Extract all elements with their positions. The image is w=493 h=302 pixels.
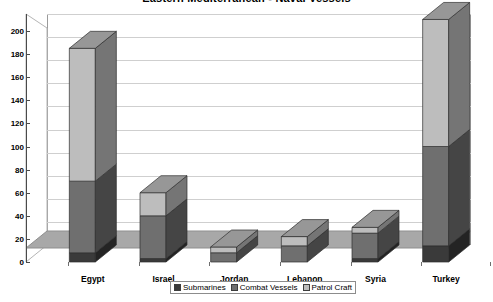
y-tick-label: 80	[0, 165, 24, 174]
legend-swatch-icon	[303, 284, 310, 291]
gridline	[47, 14, 471, 15]
x-tick-mark	[351, 262, 352, 266]
legend-item-combat-vessels[interactable]: Combat Vessels	[231, 283, 298, 292]
legend-label: Combat Vessels	[240, 283, 298, 292]
y-tick-mark	[26, 54, 30, 55]
y-tick-mark	[26, 123, 30, 124]
x-tick-mark	[280, 262, 281, 266]
x-tick-mark	[421, 262, 422, 266]
y-tick-mark	[26, 193, 30, 194]
y-tick-mark	[26, 239, 30, 240]
x-label-turkey: Turkey	[433, 274, 460, 284]
gridline	[47, 199, 471, 200]
y-tick-mark	[26, 147, 30, 148]
y-axis	[26, 14, 27, 262]
chart-title: Eastern Mediterranean - Naval Vessels	[0, 0, 493, 4]
gridline	[47, 130, 471, 131]
y-tick-label: 160	[0, 73, 24, 82]
y-tick-label: 140	[0, 96, 24, 105]
gridline	[47, 222, 471, 223]
gridline	[47, 37, 471, 38]
x-tick-mark	[490, 262, 491, 266]
x-tick-mark	[139, 262, 140, 266]
floor-plane-3d	[26, 231, 471, 261]
y-tick-label: 60	[0, 188, 24, 197]
y-tick-mark	[26, 216, 30, 217]
y-tick-label: 0	[0, 258, 24, 267]
legend-item-patrol-craft[interactable]: Patrol Craft	[303, 283, 352, 292]
gridline	[47, 153, 471, 154]
y-tick-mark	[26, 31, 30, 32]
legend-swatch-icon	[231, 284, 238, 291]
chart-container: Eastern Mediterranean - Naval Vessels 02…	[0, 0, 493, 302]
y-tick-label: 40	[0, 211, 24, 220]
x-label-syria: Syria	[365, 274, 386, 284]
y-tick-mark	[26, 100, 30, 101]
y-tick-mark	[26, 170, 30, 171]
y-tick-mark	[26, 262, 30, 263]
x-tick-mark	[68, 262, 69, 266]
x-label-egypt: Egypt	[81, 274, 105, 284]
gridline	[47, 106, 471, 107]
y-tick-label: 200	[0, 27, 24, 36]
legend-swatch-icon	[174, 284, 181, 291]
legend-item-submarines[interactable]: Submarines	[174, 283, 226, 292]
gridline	[47, 83, 471, 84]
gridline	[47, 176, 471, 177]
gridline	[47, 60, 471, 61]
y-tick-label: 120	[0, 119, 24, 128]
y-tick-label: 20	[0, 234, 24, 243]
x-tick-mark	[209, 262, 210, 266]
y-tick-label: 100	[0, 142, 24, 151]
y-tick-label: 180	[0, 50, 24, 59]
legend-label: Patrol Craft	[312, 283, 352, 292]
y-tick-mark	[26, 77, 30, 78]
legend-label: Submarines	[183, 283, 226, 292]
chart-legend: SubmarinesCombat VesselsPatrol Craft	[170, 281, 356, 294]
